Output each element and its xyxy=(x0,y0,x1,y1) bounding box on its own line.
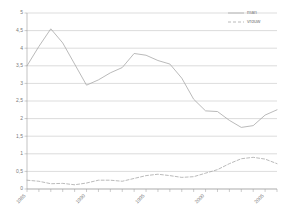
y-axis-tick-label: 3,5 xyxy=(16,62,23,68)
y-axis-tick-label: 3 xyxy=(20,80,23,86)
y-axis-tick-label: 1 xyxy=(20,150,23,156)
y-axis-tick-label: 4,5 xyxy=(16,27,23,33)
series-group xyxy=(27,29,277,185)
gridlines-group xyxy=(25,13,278,189)
x-axis-labels: 19851990199520002005 xyxy=(15,192,265,204)
x-axis-tick-label: 1985 xyxy=(15,192,27,204)
y-axis-labels: 00,511,522,533,544,55 xyxy=(16,9,23,191)
y-axis-tick-label: 2,5 xyxy=(16,97,23,103)
line-chart: 00,511,522,533,544,55 198519901995200020… xyxy=(0,0,281,216)
y-axis-tick-label: 5 xyxy=(20,9,23,15)
series-line-man xyxy=(27,29,277,128)
x-axis-tick-label: 1995 xyxy=(134,192,146,204)
x-axis-ticks xyxy=(27,189,277,192)
x-axis-tick-label: 1990 xyxy=(74,192,86,204)
legend-label-man: man xyxy=(247,9,257,15)
y-axis-tick-label: 4 xyxy=(20,45,23,51)
x-axis-tick-label: 2000 xyxy=(193,192,205,204)
y-axis-tick-label: 0 xyxy=(20,185,23,191)
y-axis-tick-label: 1,5 xyxy=(16,133,23,139)
x-axis-tick-label: 2005 xyxy=(253,192,265,204)
legend: manvrouw xyxy=(228,9,261,24)
y-axis-tick-label: 0,5 xyxy=(16,168,23,174)
chart-canvas: 00,511,522,533,544,55 198519901995200020… xyxy=(0,0,281,216)
y-axis-tick-label: 2 xyxy=(20,115,23,121)
series-line-vrouw xyxy=(27,157,277,184)
legend-label-vrouw: vrouw xyxy=(247,18,261,24)
